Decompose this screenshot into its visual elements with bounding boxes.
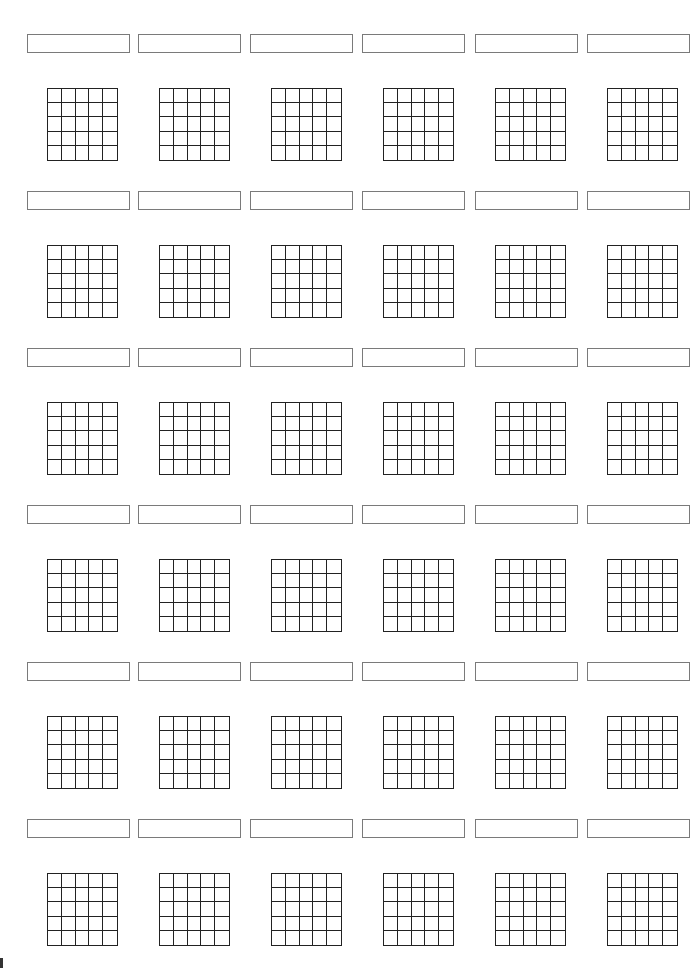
grid-cell[interactable] bbox=[537, 89, 551, 103]
grid-cell[interactable] bbox=[215, 274, 229, 288]
grid-cell[interactable] bbox=[649, 289, 663, 303]
grid-cell[interactable] bbox=[412, 717, 426, 731]
grid-cell[interactable] bbox=[537, 103, 551, 117]
grid-cell[interactable] bbox=[537, 917, 551, 931]
grid-cell[interactable] bbox=[537, 403, 551, 417]
grid-cell[interactable] bbox=[649, 560, 663, 574]
grid-cell[interactable] bbox=[188, 731, 202, 745]
grid-cell[interactable] bbox=[174, 89, 188, 103]
grid-cell[interactable] bbox=[398, 260, 412, 274]
grid-cell[interactable] bbox=[412, 460, 426, 474]
grid-cell[interactable] bbox=[412, 132, 426, 146]
grid-cell[interactable] bbox=[313, 588, 327, 602]
grid-cell[interactable] bbox=[48, 574, 62, 588]
grid-cell[interactable] bbox=[608, 403, 622, 417]
grid-cell[interactable] bbox=[537, 874, 551, 888]
grid-cell[interactable] bbox=[537, 274, 551, 288]
grid-cell[interactable] bbox=[174, 617, 188, 631]
grid-cell[interactable] bbox=[663, 403, 677, 417]
grid-cell[interactable] bbox=[300, 603, 314, 617]
grid-cell[interactable] bbox=[398, 246, 412, 260]
grid-cell[interactable] bbox=[649, 603, 663, 617]
grid-cell[interactable] bbox=[48, 617, 62, 631]
grid-cell[interactable] bbox=[439, 446, 453, 460]
grid-cell[interactable] bbox=[300, 132, 314, 146]
grid-cell[interactable] bbox=[622, 403, 636, 417]
grid-cell[interactable] bbox=[496, 731, 510, 745]
grid-cell[interactable] bbox=[76, 117, 90, 131]
grid-cell[interactable] bbox=[327, 717, 341, 731]
grid-cell[interactable] bbox=[425, 117, 439, 131]
grid-cell[interactable] bbox=[76, 774, 90, 788]
grid-cell[interactable] bbox=[649, 403, 663, 417]
grid-cell[interactable] bbox=[622, 417, 636, 431]
grid-cell[interactable] bbox=[62, 103, 76, 117]
label-box[interactable] bbox=[587, 819, 690, 838]
grid-cell[interactable] bbox=[510, 774, 524, 788]
grid-cell[interactable] bbox=[188, 89, 202, 103]
label-box[interactable] bbox=[475, 34, 578, 53]
grid-cell[interactable] bbox=[425, 888, 439, 902]
grid-cell[interactable] bbox=[649, 132, 663, 146]
grid-cell[interactable] bbox=[272, 89, 286, 103]
grid-cell[interactable] bbox=[300, 902, 314, 916]
grid-cell[interactable] bbox=[272, 431, 286, 445]
grid-cell[interactable] bbox=[103, 617, 117, 631]
grid-cell[interactable] bbox=[300, 588, 314, 602]
grid-cell[interactable] bbox=[551, 874, 565, 888]
grid-cell[interactable] bbox=[174, 731, 188, 745]
grid-cell[interactable] bbox=[327, 603, 341, 617]
grid-cell[interactable] bbox=[649, 89, 663, 103]
grid-cell[interactable] bbox=[551, 917, 565, 931]
grid-cell[interactable] bbox=[215, 603, 229, 617]
grid-cell[interactable] bbox=[103, 917, 117, 931]
grid-cell[interactable] bbox=[201, 717, 215, 731]
grid-cell[interactable] bbox=[62, 246, 76, 260]
grid-cell[interactable] bbox=[608, 303, 622, 317]
grid-cell[interactable] bbox=[384, 460, 398, 474]
grid-cell[interactable] bbox=[300, 931, 314, 945]
grid-cell[interactable] bbox=[622, 617, 636, 631]
grid-cell[interactable] bbox=[663, 289, 677, 303]
grid-cell[interactable] bbox=[524, 146, 538, 160]
grid-cell[interactable] bbox=[524, 574, 538, 588]
grid-cell[interactable] bbox=[160, 574, 174, 588]
grid-cell[interactable] bbox=[636, 274, 650, 288]
grid-cell[interactable] bbox=[89, 603, 103, 617]
grid-cell[interactable] bbox=[201, 774, 215, 788]
grid-cell[interactable] bbox=[412, 417, 426, 431]
grid-cell[interactable] bbox=[663, 260, 677, 274]
grid-cell[interactable] bbox=[76, 560, 90, 574]
grid-cell[interactable] bbox=[188, 274, 202, 288]
grid-cell[interactable] bbox=[663, 617, 677, 631]
grid-cell[interactable] bbox=[439, 874, 453, 888]
grid-cell[interactable] bbox=[174, 745, 188, 759]
grid-cell[interactable] bbox=[174, 774, 188, 788]
grid-cell[interactable] bbox=[524, 745, 538, 759]
grid-cell[interactable] bbox=[551, 745, 565, 759]
grid-cell[interactable] bbox=[201, 931, 215, 945]
grid-cell[interactable] bbox=[62, 446, 76, 460]
grid-cell[interactable] bbox=[62, 588, 76, 602]
grid-cell[interactable] bbox=[188, 117, 202, 131]
grid-cell[interactable] bbox=[510, 588, 524, 602]
grid-cell[interactable] bbox=[524, 917, 538, 931]
grid-cell[interactable] bbox=[551, 560, 565, 574]
grid-cell[interactable] bbox=[89, 146, 103, 160]
grid-cell[interactable] bbox=[286, 246, 300, 260]
grid-cell[interactable] bbox=[608, 731, 622, 745]
grid-cell[interactable] bbox=[537, 117, 551, 131]
grid-cell[interactable] bbox=[524, 246, 538, 260]
label-box[interactable] bbox=[362, 819, 465, 838]
grid-cell[interactable] bbox=[103, 403, 117, 417]
grid-cell[interactable] bbox=[62, 89, 76, 103]
label-box[interactable] bbox=[587, 662, 690, 681]
grid-cell[interactable] bbox=[327, 303, 341, 317]
grid-cell[interactable] bbox=[649, 574, 663, 588]
grid-cell[interactable] bbox=[510, 874, 524, 888]
grid-cell[interactable] bbox=[439, 574, 453, 588]
grid-cell[interactable] bbox=[608, 417, 622, 431]
grid-cell[interactable] bbox=[188, 617, 202, 631]
grid-cell[interactable] bbox=[48, 117, 62, 131]
grid-cell[interactable] bbox=[425, 260, 439, 274]
